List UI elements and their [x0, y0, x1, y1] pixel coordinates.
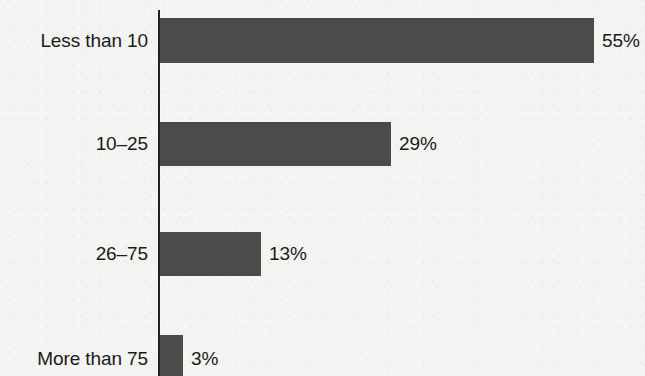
bar [160, 335, 183, 376]
value-label: 3% [191, 349, 218, 368]
category-label: 10–25 [96, 134, 148, 153]
horizontal-bar-chart: Less than 10 55% 10–25 29% 26–75 13% Mor… [0, 0, 645, 376]
value-label: 29% [399, 134, 437, 153]
bar [160, 232, 261, 276]
category-label: More than 75 [37, 349, 148, 368]
category-axis-line [158, 10, 160, 376]
bar [160, 18, 594, 63]
value-label: 55% [602, 31, 640, 50]
category-label: 26–75 [96, 244, 148, 263]
value-label: 13% [269, 244, 307, 263]
category-label: Less than 10 [40, 31, 148, 50]
bar [160, 122, 391, 166]
